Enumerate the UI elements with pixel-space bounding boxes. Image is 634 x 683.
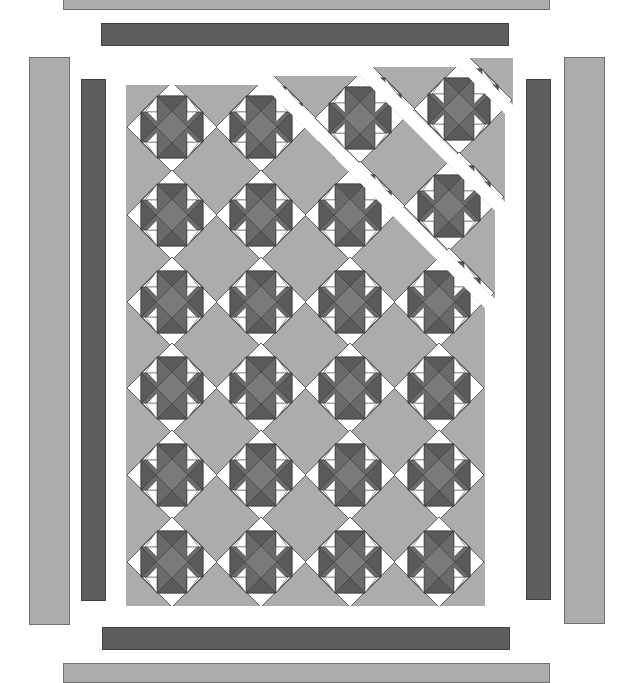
quilt-center <box>0 0 634 679</box>
